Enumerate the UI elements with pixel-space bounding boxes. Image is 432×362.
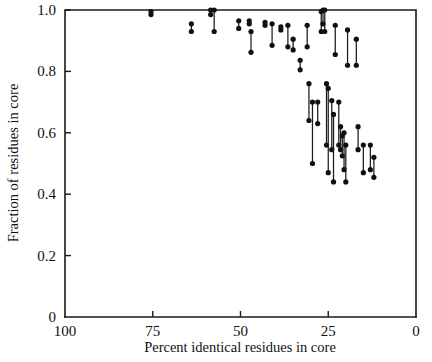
data-point (305, 23, 310, 50)
data-point (247, 18, 252, 26)
data-point (262, 20, 267, 28)
data-point (291, 37, 296, 53)
x-axis-title: Percent identical residues in core (144, 339, 336, 355)
data-point (285, 23, 290, 50)
y-tick-label-2: 0.4 (37, 186, 56, 202)
y-tick-label-5: 1.0 (37, 2, 56, 18)
data-point (248, 29, 253, 55)
scatter-plot: 1007550250 00.20.40.60.81.0 Percent iden… (0, 0, 432, 362)
data-point (148, 9, 153, 17)
y-axis-ticks: 00.20.40.60.81.0 (37, 2, 71, 325)
data-point (236, 18, 241, 31)
data-point (189, 21, 194, 34)
y-tick-label-0: 0 (49, 309, 57, 325)
x-tick-label-3: 25 (321, 323, 336, 339)
x-axis-ticks: 1007550250 (54, 311, 420, 339)
x-tick-label-0: 100 (54, 323, 77, 339)
data-point (355, 124, 360, 152)
data-point (315, 100, 320, 127)
y-tick-label-1: 0.2 (37, 248, 56, 264)
data-point (212, 7, 217, 34)
y-axis-title: Fraction of residues in core (5, 84, 21, 243)
data-point (310, 100, 315, 167)
x-tick-label-1: 75 (145, 323, 160, 339)
data-point (361, 142, 366, 175)
data-point (354, 37, 359, 68)
data-point (333, 23, 338, 57)
data-point (298, 58, 303, 73)
figure-container: 1007550250 00.20.40.60.81.0 Percent iden… (0, 0, 432, 362)
data-points-layer (148, 7, 376, 184)
data-point (371, 155, 376, 180)
x-tick-label-4: 0 (412, 323, 420, 339)
data-point (269, 21, 274, 48)
y-tick-label-4: 0.8 (37, 63, 56, 79)
x-tick-label-2: 50 (233, 323, 248, 339)
y-tick-label-3: 0.6 (37, 125, 56, 141)
data-point (278, 24, 283, 32)
data-point (345, 27, 350, 68)
